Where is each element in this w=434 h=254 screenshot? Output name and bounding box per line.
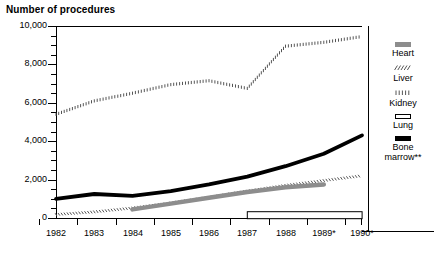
legend-swatch-outline-bar-icon	[395, 114, 411, 119]
series-bone-marrow	[56, 135, 362, 198]
chart-plot-series	[0, 0, 434, 254]
legend-item-kidney[interactable]: Kidney	[372, 89, 434, 108]
legend-item-bone[interactable]: Bonemarrow**	[372, 136, 434, 162]
legend-swatch-gray-bar-icon	[395, 42, 411, 47]
series-heart	[133, 184, 324, 209]
legend-label: Lung	[372, 120, 434, 130]
legend-swatch-vertical-hatch-icon	[394, 89, 412, 97]
legend-label-line2: marrow**	[372, 152, 434, 162]
legend-label: Kidney	[372, 98, 434, 108]
legend-item-liver[interactable]: Liver	[372, 64, 434, 83]
series-kidney	[56, 35, 359, 116]
legend-label: Bone	[372, 142, 434, 152]
chart-legend: HeartLiverKidneyLungBonemarrow**	[372, 40, 434, 168]
legend-label: Liver	[372, 73, 434, 83]
legend-label: Heart	[372, 48, 434, 58]
legend-item-heart[interactable]: Heart	[372, 42, 434, 58]
legend-swatch-black-bar-icon	[395, 136, 411, 141]
legend-swatch-diagonal-hatch-icon	[394, 64, 412, 72]
chart-container: Number of procedures 02,0004,0006,0008,0…	[0, 0, 434, 254]
legend-item-lung[interactable]: Lung	[372, 114, 434, 130]
series-lung	[247, 212, 362, 219]
